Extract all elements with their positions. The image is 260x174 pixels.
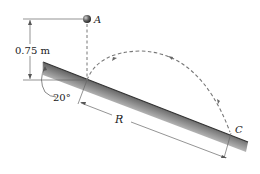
projectile-incline-diagram: 0.75 m A 20° R C xyxy=(0,0,260,174)
arrow-icon xyxy=(112,57,117,61)
arrow-down-icon xyxy=(28,74,32,79)
height-label: 0.75 m xyxy=(15,45,50,56)
ball-icon xyxy=(83,15,91,23)
incline-surface xyxy=(43,62,248,142)
angle-label: 20° xyxy=(53,92,71,103)
point-a-label: A xyxy=(93,14,101,25)
ball-a: A xyxy=(83,14,101,25)
arrow-up-icon xyxy=(28,20,32,25)
arrow-right-icon xyxy=(221,155,227,158)
range-label: R xyxy=(114,113,123,126)
point-c-label: C xyxy=(235,124,243,135)
arrow-icon xyxy=(168,56,173,60)
incline xyxy=(43,62,248,152)
arrow-left-icon xyxy=(80,102,86,105)
